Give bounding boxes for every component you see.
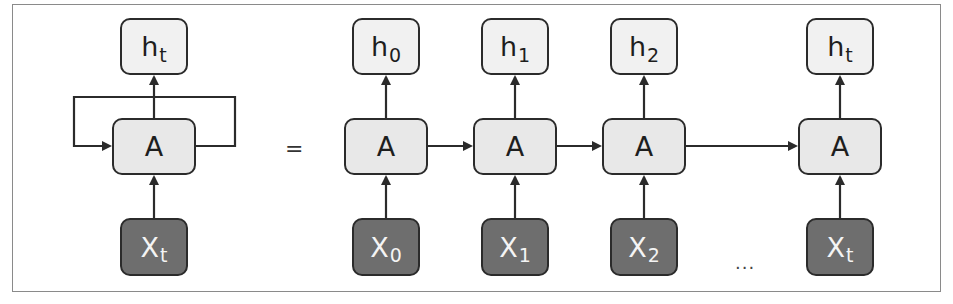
cell-node-at: A	[798, 118, 882, 175]
equals-sign: =	[285, 136, 303, 161]
node-subscript: t	[846, 244, 853, 266]
folded-cell-node: A	[112, 118, 196, 175]
node-subscript: 1	[518, 44, 530, 66]
output-node-h2: h2	[610, 18, 678, 75]
node-label: A	[635, 133, 653, 160]
node-label: X	[370, 234, 389, 261]
node-label: X	[499, 234, 518, 261]
cell-node-a1: A	[473, 118, 557, 175]
node-subscript: 2	[647, 44, 659, 66]
ellipsis: ...	[735, 252, 755, 273]
node-label: A	[831, 133, 849, 160]
input-node-xt: Xt	[806, 218, 874, 276]
node-subscript: 2	[648, 244, 660, 266]
node-label: A	[506, 133, 524, 160]
node-subscript: 0	[390, 244, 402, 266]
cell-node-a2: A	[602, 118, 686, 175]
folded-output-node: ht	[120, 18, 188, 75]
node-label: h	[629, 33, 646, 60]
input-node-x0: X0	[352, 218, 420, 276]
node-label: h	[141, 33, 158, 60]
cell-node-a0: A	[344, 118, 428, 175]
input-node-x2: X2	[610, 218, 678, 276]
output-node-h1: h1	[481, 18, 549, 75]
output-node-h0: h0	[352, 18, 420, 75]
node-subscript: 1	[519, 244, 531, 266]
node-subscript: t	[159, 44, 166, 66]
node-label: A	[377, 133, 395, 160]
node-label: h	[371, 33, 388, 60]
folded-input-node: Xt	[120, 218, 188, 276]
node-label: X	[628, 234, 647, 261]
input-node-x1: X1	[481, 218, 549, 276]
node-label: X	[141, 234, 160, 261]
node-label: A	[145, 133, 163, 160]
node-label: h	[500, 33, 517, 60]
node-subscript: t	[160, 244, 167, 266]
node-label: h	[827, 33, 844, 60]
node-subscript: 0	[389, 44, 401, 66]
output-node-ht: ht	[806, 18, 874, 75]
node-label: X	[827, 234, 846, 261]
node-subscript: t	[845, 44, 852, 66]
